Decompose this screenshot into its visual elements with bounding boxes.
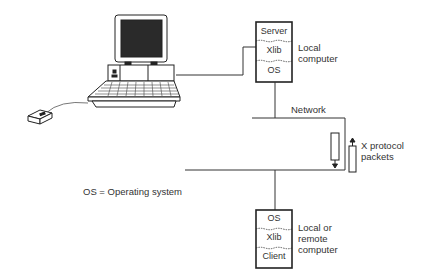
client-layer-client: Client bbox=[256, 251, 292, 261]
mouse-icon bbox=[28, 110, 52, 124]
server-layer-xlib: Xlib bbox=[256, 45, 292, 55]
server-location-label-2: computer bbox=[298, 53, 338, 64]
packets-label-1: X protocol bbox=[361, 140, 404, 151]
network-label: Network bbox=[291, 104, 326, 115]
client-location-label-3: computer bbox=[298, 244, 338, 255]
client-location-label-1: Local or bbox=[298, 222, 332, 233]
packets-label-2: packets bbox=[361, 151, 394, 162]
computer-terminal-icon bbox=[46, 15, 180, 113]
packet-down-icon bbox=[331, 133, 339, 168]
legend-text: OS = Operating system bbox=[83, 186, 182, 197]
x-window-architecture-diagram bbox=[0, 0, 426, 275]
client-layer-os: OS bbox=[256, 213, 292, 223]
server-layer-server: Server bbox=[256, 26, 292, 36]
packet-up-icon bbox=[349, 138, 356, 172]
server-location-label-1: Local bbox=[298, 42, 321, 53]
network-segment bbox=[185, 118, 345, 170]
client-layer-xlib: Xlib bbox=[256, 232, 292, 242]
server-layer-os: OS bbox=[256, 65, 292, 75]
workstation-link bbox=[176, 47, 256, 75]
client-location-label-2: remote bbox=[298, 233, 328, 244]
